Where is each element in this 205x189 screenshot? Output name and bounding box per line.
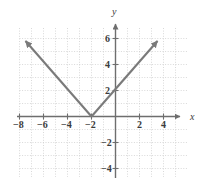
- y-tick-label-4: 4: [105, 60, 110, 70]
- x-axis-label: x: [190, 112, 194, 122]
- y-tick-label-2: 2: [105, 86, 110, 96]
- x-tick-label--6: −6: [37, 120, 48, 130]
- x-tick-label--8: −8: [13, 120, 24, 130]
- axes: [17, 24, 180, 178]
- graph-figure: −8 −6 −4 −2 2 4 6 4 2 −2 −4 y x: [0, 0, 205, 189]
- y-tick-label-6: 6: [105, 34, 110, 44]
- x-tick-label-2: 2: [137, 120, 142, 130]
- y-tick-label--4: −4: [101, 164, 112, 174]
- x-tick-label--4: −4: [61, 120, 72, 130]
- curve-left-branch: [26, 41, 92, 117]
- y-axis-label: y: [112, 7, 116, 17]
- curve-right-branch: [92, 41, 158, 117]
- x-tick-label--2: −2: [85, 120, 96, 130]
- coordinate-plane-svg: [0, 0, 205, 189]
- y-tick-label--2: −2: [101, 138, 112, 148]
- x-tick-label-4: 4: [161, 120, 166, 130]
